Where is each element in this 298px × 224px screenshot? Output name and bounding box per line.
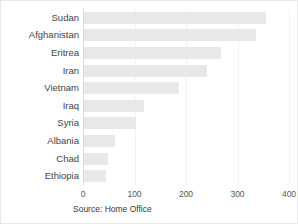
bar[interactable] <box>83 82 179 94</box>
bar-row[interactable] <box>83 135 289 147</box>
bar-row[interactable] <box>83 65 289 77</box>
x-tick-label: 400 <box>269 189 298 199</box>
bar-row[interactable] <box>83 82 289 94</box>
category-label-column: SudanAfghanistanEritreaIranVietnamIraqSy… <box>1 9 79 185</box>
bar-row[interactable] <box>83 153 289 165</box>
category-label: Ethiopia <box>1 170 79 182</box>
bar[interactable] <box>83 117 136 129</box>
category-label: Albania <box>1 135 79 147</box>
gridline-400 <box>289 9 290 185</box>
bar[interactable] <box>83 47 221 59</box>
bar[interactable] <box>83 135 115 147</box>
bar-row[interactable] <box>83 29 289 41</box>
x-tick-label: 100 <box>115 189 155 199</box>
category-label: Syria <box>1 117 79 129</box>
bar[interactable] <box>83 29 256 41</box>
category-label: Afghanistan <box>1 29 79 41</box>
bar-row[interactable] <box>83 47 289 59</box>
source-note: Source: Home Office <box>73 204 152 215</box>
bar-row[interactable] <box>83 100 289 112</box>
bar-row[interactable] <box>83 170 289 182</box>
category-label: Iraq <box>1 100 79 112</box>
bar[interactable] <box>83 12 266 24</box>
category-label: Iran <box>1 65 79 77</box>
bar[interactable] <box>83 100 144 112</box>
bar[interactable] <box>83 170 106 182</box>
category-label: Vietnam <box>1 82 79 94</box>
bar[interactable] <box>83 65 207 77</box>
x-tick-label: 0 <box>63 189 103 199</box>
x-tick-label: 300 <box>218 189 258 199</box>
bar-row[interactable] <box>83 12 289 24</box>
bar-chart: SudanAfghanistanEritreaIranVietnamIraqSy… <box>0 0 298 224</box>
bar-row[interactable] <box>83 117 289 129</box>
category-label: Eritrea <box>1 47 79 59</box>
x-tick-label: 200 <box>166 189 206 199</box>
plot-area <box>83 9 289 185</box>
bar[interactable] <box>83 153 108 165</box>
category-label: Sudan <box>1 12 79 24</box>
y-axis-line <box>83 9 84 185</box>
category-label: Chad <box>1 153 79 165</box>
